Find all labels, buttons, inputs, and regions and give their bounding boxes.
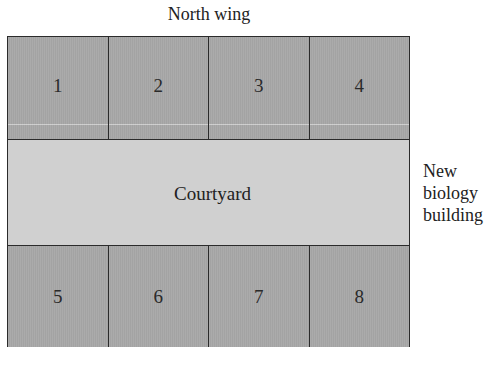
lot-5-label: 5 [53,286,63,308]
north-wing-label: North wing [0,3,418,25]
building-label-line-2: biology [423,182,483,204]
lot-6-label: 6 [154,286,164,308]
lot-3-label: 3 [254,75,264,97]
new-biology-building-label: New biology building [423,160,483,226]
lot-7: 7 [209,246,310,347]
lot-2: 2 [109,37,210,139]
lot-4-label: 4 [355,75,365,97]
lot-8-label: 8 [355,286,365,308]
building-label-line-1: New [423,160,483,182]
building-label-line-3: building [423,204,483,226]
courtyard-area: Courtyard [8,139,409,246]
south-lot-row: 5 6 7 8 [8,245,409,347]
lot-1-label: 1 [53,75,63,97]
courtyard-label: Courtyard [174,183,251,205]
lot-8: 8 [310,246,410,347]
north-lot-row: 1 2 3 4 [8,37,409,139]
building-floor-plan: 1 2 3 4 Courtyard 5 6 7 8 [7,36,410,347]
lot-4: 4 [310,37,410,139]
lot-6: 6 [109,246,210,347]
lot-1: 1 [8,37,109,139]
lot-5: 5 [8,246,109,347]
lot-7-label: 7 [254,286,264,308]
lot-3: 3 [209,37,310,139]
lot-2-label: 2 [154,75,164,97]
